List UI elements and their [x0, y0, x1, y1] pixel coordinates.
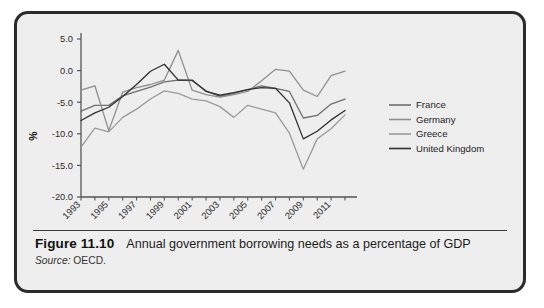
x-tick-label: 2003 — [200, 199, 222, 221]
figure-card: 5.00.0-5.0-10.0-15.0-20.0%19931995199719… — [14, 11, 526, 293]
x-tick-label: 2007 — [255, 199, 277, 221]
figure-caption-text: Annual government borrowing needs as a p… — [126, 237, 470, 251]
caption-divider — [33, 230, 507, 231]
x-tick-label: 1999 — [144, 199, 166, 221]
y-tick-label: 5.0 — [60, 34, 73, 44]
x-tick-label: 2001 — [172, 199, 194, 221]
series-line-greece — [81, 91, 345, 169]
y-tick-label: 0.0 — [60, 66, 73, 76]
x-tick-label: 2009 — [283, 199, 305, 221]
x-tick-label: 2005 — [227, 199, 249, 221]
line-chart: 5.00.0-5.0-10.0-15.0-20.0%19931995199719… — [17, 14, 529, 228]
x-tick-label: 1995 — [89, 199, 111, 221]
figure-number: Figure 11.10 — [35, 236, 114, 251]
legend-label-united-kingdom: United Kingdom — [416, 143, 484, 154]
y-axis-title: % — [27, 131, 39, 141]
series-line-germany — [81, 50, 345, 130]
legend-label-greece: Greece — [416, 128, 447, 139]
legend-label-france: France — [416, 99, 446, 110]
caption-block: Figure 11.10 Annual government borrowing… — [35, 236, 509, 266]
figure-source: Source: OECD. — [35, 255, 509, 266]
y-tick-label: -15.0 — [52, 161, 73, 171]
chart-plot-region: 5.00.0-5.0-10.0-15.0-20.0%19931995199719… — [17, 14, 529, 228]
y-tick-label: -20.0 — [52, 192, 73, 202]
x-tick-label: 1993 — [61, 199, 83, 221]
x-tick-label: 2011 — [311, 199, 332, 220]
x-tick-label: 1997 — [116, 199, 138, 221]
source-label: Source: — [35, 255, 71, 266]
y-tick-label: -10.0 — [52, 129, 73, 139]
source-value: OECD. — [71, 255, 106, 266]
series-line-united-kingdom — [81, 64, 345, 139]
legend-label-germany: Germany — [416, 114, 456, 125]
y-tick-label: -5.0 — [57, 98, 73, 108]
